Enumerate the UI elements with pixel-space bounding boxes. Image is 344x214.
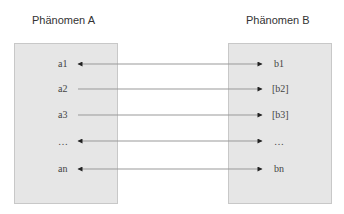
mapping-arrows [0, 0, 344, 214]
